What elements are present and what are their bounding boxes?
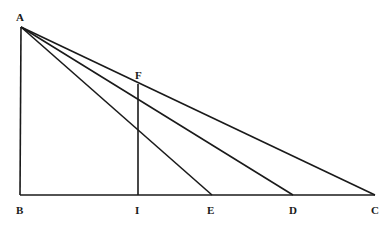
segment-ad: [21, 27, 293, 195]
segment-ae: [21, 27, 212, 195]
label-f: F: [135, 69, 142, 81]
segment-ac: [21, 27, 375, 195]
label-c: C: [371, 204, 379, 216]
label-i: I: [135, 204, 139, 216]
label-b: B: [16, 204, 24, 216]
segment-ab: [20, 27, 21, 195]
label-d: D: [289, 204, 297, 216]
label-e: E: [207, 204, 214, 216]
diagram-svg: A F B I E D C: [0, 0, 392, 228]
label-a: A: [16, 11, 24, 23]
geometry-diagram: A F B I E D C: [0, 0, 392, 228]
